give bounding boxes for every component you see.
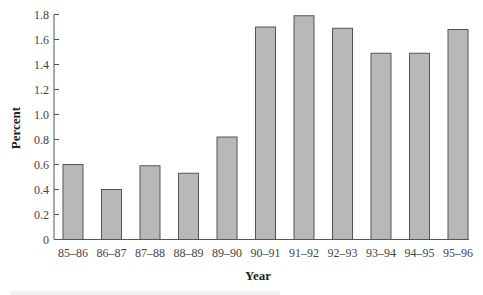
y-axis-label: Percent xyxy=(8,107,24,149)
y-tick-label: 0.6 xyxy=(34,158,49,172)
figure-caption-cutoff xyxy=(10,290,280,295)
x-axis-label: Year xyxy=(245,268,271,284)
x-tick-label: 91–92 xyxy=(289,246,319,260)
bar-86–87 xyxy=(102,190,122,240)
y-tick-label: 0 xyxy=(43,233,49,247)
y-tick-label: 1.2 xyxy=(34,83,49,97)
bar-88–89 xyxy=(179,173,199,239)
y-tick-label: 0.4 xyxy=(34,183,49,197)
plot-area: 85–8686–8787–8888–8989–9090–9191–9292–93… xyxy=(0,0,483,295)
y-tick-label: 1.4 xyxy=(34,58,49,72)
bar-chart: 85–8686–8787–8888–8989–9090–9191–9292–93… xyxy=(0,0,483,295)
y-tick-label: 1.8 xyxy=(34,8,49,22)
bar-94–95 xyxy=(410,53,430,239)
bar-85–86 xyxy=(63,165,83,240)
y-tick-label: 1.6 xyxy=(34,33,49,47)
bar-87–88 xyxy=(140,166,160,240)
x-tick-label: 90–91 xyxy=(251,246,281,260)
x-tick-label: 94–95 xyxy=(405,246,435,260)
x-tick-label: 86–87 xyxy=(97,246,127,260)
bar-95–96 xyxy=(448,30,468,240)
y-tick-label: 0.8 xyxy=(34,133,49,147)
bar-92–93 xyxy=(333,28,353,239)
y-tick-label: 1.0 xyxy=(34,108,49,122)
x-tick-label: 85–86 xyxy=(58,246,88,260)
bar-91–92 xyxy=(294,16,314,240)
x-tick-label: 89–90 xyxy=(212,246,242,260)
x-tick-label: 92–93 xyxy=(328,246,358,260)
y-tick-label: 0.2 xyxy=(34,208,49,222)
x-tick-label: 87–88 xyxy=(135,246,165,260)
bar-90–91 xyxy=(256,27,276,240)
x-tick-label: 88–89 xyxy=(174,246,204,260)
bar-89–90 xyxy=(217,137,237,240)
bar-93–94 xyxy=(371,53,391,239)
x-tick-label: 93–94 xyxy=(366,246,396,260)
x-tick-label: 95–96 xyxy=(443,246,473,260)
